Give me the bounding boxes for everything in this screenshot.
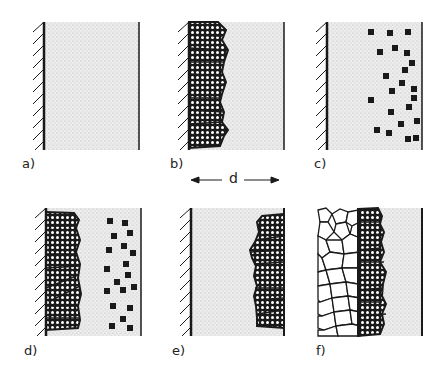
panel-label-d: d) (24, 343, 37, 358)
panel-label-b: b) (170, 156, 183, 171)
panel-label-f: f) (316, 343, 326, 358)
panel-label-e: e) (172, 343, 185, 358)
panel-e (180, 208, 284, 336)
panel-label-c: c) (314, 156, 326, 171)
panel-d (35, 208, 141, 336)
panel-c (316, 22, 422, 150)
dimension-label: d (229, 170, 238, 186)
panel-a (33, 22, 139, 150)
panel-b (178, 22, 284, 150)
figure-canvas (0, 0, 444, 377)
panel-f (318, 208, 422, 336)
panel-label-a: a) (22, 156, 35, 171)
